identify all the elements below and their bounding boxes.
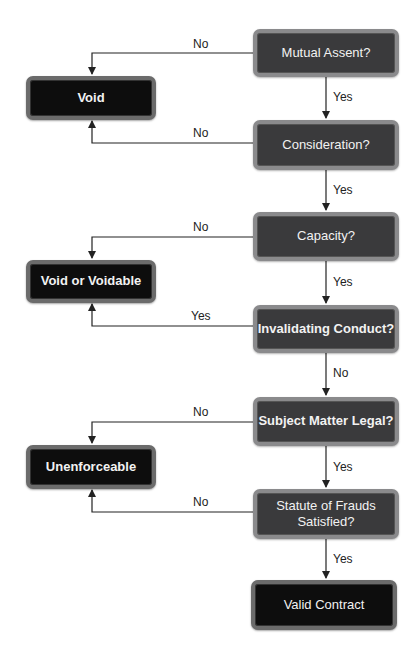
edge-label-subject-matter-yes: Yes [333,460,353,474]
edge-label-statute-no: No [193,495,208,509]
edge-label-capacity-no: No [193,220,208,234]
decision-subject-matter-legal: Subject Matter Legal? [253,397,399,446]
outcome-void-or-voidable: Void or Voidable [26,260,156,303]
edge-label-consideration-no: No [193,126,208,140]
outcome-void: Void [26,76,156,120]
edge-label-statute-yes: Yes [333,552,353,566]
edge-label-consideration-yes: Yes [333,183,353,197]
edge-label-mutual-assent-yes: Yes [333,90,353,104]
decision-statute-of-frauds: Statute of Frauds Satisfied? [253,489,399,539]
edge-label-invalidating-yes: Yes [191,309,211,323]
outcome-valid-contract: Valid Contract [251,580,397,630]
edge-label-capacity-yes: Yes [333,275,353,289]
edge-label-mutual-assent-no: No [193,37,208,51]
decision-invalidating-conduct: Invalidating Conduct? [253,305,399,353]
decision-mutual-assent: Mutual Assent? [253,29,399,77]
edge-label-invalidating-no: No [333,366,348,380]
outcome-unenforceable: Unenforceable [26,445,156,489]
decision-capacity: Capacity? [253,212,399,261]
edge-label-subject-matter-no: No [193,405,208,419]
decision-consideration: Consideration? [253,120,399,170]
